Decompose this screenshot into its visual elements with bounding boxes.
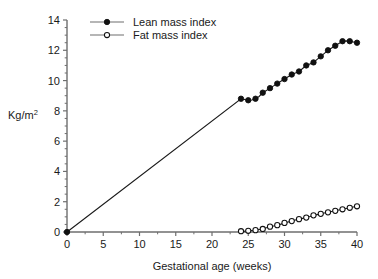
legend-label-1: Fat mass index: [133, 29, 208, 41]
y-tick-label: 12: [48, 44, 60, 56]
data-point: [246, 228, 251, 233]
data-point: [354, 204, 359, 209]
legend: Lean mass indexFat mass index: [90, 16, 217, 41]
data-point: [325, 48, 330, 53]
data-point: [318, 54, 323, 59]
data-point: [282, 220, 287, 225]
y-tick-label: 2: [54, 196, 60, 208]
data-point: [311, 213, 316, 218]
data-point: [325, 210, 330, 215]
y-axis-title-base: Kg/m: [8, 109, 34, 121]
data-point: [289, 72, 294, 77]
y-tick-label: 8: [54, 105, 60, 117]
y-tick-label: 14: [48, 14, 60, 26]
data-point: [64, 229, 69, 234]
data-point: [238, 96, 243, 101]
x-tick-label: 25: [242, 238, 254, 250]
data-point: [275, 223, 280, 228]
data-point: [296, 217, 301, 222]
data-point: [333, 208, 338, 213]
y-axis-title-superscript: 2: [34, 108, 38, 117]
data-point: [347, 205, 352, 210]
y-tick-label: 0: [54, 226, 60, 238]
x-tick-label: 0: [64, 238, 70, 250]
data-point: [282, 76, 287, 81]
x-axis-title: Gestational age (weeks): [153, 260, 272, 272]
data-point: [260, 90, 265, 95]
data-point: [253, 228, 258, 233]
y-tick-label: 10: [48, 75, 60, 87]
line-chart: 024681012140510152025303540Gestational a…: [0, 0, 378, 279]
y-tick-label: 4: [54, 165, 60, 177]
x-tick-label: 10: [133, 238, 145, 250]
data-point: [340, 207, 345, 212]
data-point: [347, 39, 352, 44]
y-axis-title: Kg/m2: [8, 108, 38, 121]
data-point: [296, 69, 301, 74]
data-point: [311, 60, 316, 65]
data-point: [267, 224, 272, 229]
data-point: [253, 96, 258, 101]
series-line-0: [67, 41, 357, 232]
legend-label-0: Lean mass index: [133, 16, 217, 28]
y-tick-label: 6: [54, 135, 60, 147]
legend-marker-0: [104, 19, 109, 24]
x-tick-label: 30: [278, 238, 290, 250]
data-point: [246, 98, 251, 103]
x-tick-label: 40: [351, 238, 363, 250]
data-point: [267, 85, 272, 90]
data-point: [289, 218, 294, 223]
data-point: [354, 40, 359, 45]
data-point: [318, 211, 323, 216]
x-tick-label: 5: [100, 238, 106, 250]
data-point: [304, 63, 309, 68]
chart-container: 024681012140510152025303540Gestational a…: [0, 0, 378, 279]
data-point: [275, 81, 280, 86]
data-point: [260, 226, 265, 231]
data-point: [333, 43, 338, 48]
data-point: [340, 39, 345, 44]
x-tick-label: 15: [170, 238, 182, 250]
x-tick-label: 35: [315, 238, 327, 250]
x-tick-label: 20: [206, 238, 218, 250]
legend-marker-1: [104, 32, 109, 37]
data-point: [304, 215, 309, 220]
data-point: [238, 229, 243, 234]
